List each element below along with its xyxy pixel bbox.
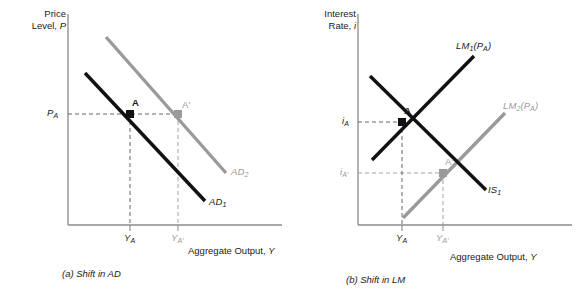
marker-point-a [398, 118, 406, 126]
x-tick-label-ya: YA [124, 232, 135, 245]
y-axis-title-b-line1: Interest [324, 8, 356, 19]
y-axis-title-a: Price Level, P [30, 8, 66, 32]
curve-lm2 [403, 113, 505, 218]
panel-b-shift-in-lm: Interest Rate, i Aggregate Output, Y iA … [290, 0, 580, 297]
y-axis-title-a-line1: Price [44, 8, 66, 19]
panel-a-shift-in-ad: Price Level, P Aggregate Output, Y PA YA… [0, 0, 290, 297]
curve-lm1 [372, 56, 474, 160]
curve-label-lm2: LM2(PA) [503, 100, 538, 113]
y-tick-label-ia: iA [342, 115, 349, 128]
figure-container: Price Level, P Aggregate Output, Y PA YA… [0, 0, 580, 297]
x-axis-title-b: Aggregate Output, Y [450, 251, 537, 263]
point-label-a: A [132, 97, 139, 109]
curve-label-ad1: AD1 [209, 196, 226, 209]
marker-point-a-prime [174, 110, 182, 118]
point-label-a-prime: A′ [182, 99, 190, 111]
y-axis-title-a-line2: Level, P [32, 20, 66, 31]
curve-ad1 [85, 73, 205, 201]
curve-label-ad2: AD2 [231, 166, 248, 179]
marker-point-a-prime [439, 169, 447, 177]
y-tick-label-pa: PA [47, 107, 58, 120]
x-tick-label-ya-prime: YA′ [171, 232, 184, 245]
y-axis-title-b-line2: Rate, i [329, 20, 356, 31]
y-axis-title-b: Interest Rate, i [308, 8, 356, 32]
point-label-a: A [404, 105, 411, 117]
curve-ad2 [106, 37, 226, 173]
y-tick-label-ia-prime: iA′ [340, 166, 348, 179]
panel-b-caption: (b) Shift in LM [346, 274, 405, 285]
curve-label-is1: IS1 [488, 184, 501, 197]
point-label-a-prime: A′ [445, 156, 453, 168]
x-axis-title-a: Aggregate Output, Y [188, 245, 275, 257]
x-tick-label-ya-prime: YA′ [436, 232, 449, 245]
marker-point-a [126, 110, 134, 118]
curve-label-lm1: LM1(PA) [456, 40, 491, 53]
x-tick-label-ya: YA [396, 232, 407, 245]
panel-a-caption: (a) Shift in AD [62, 268, 121, 279]
